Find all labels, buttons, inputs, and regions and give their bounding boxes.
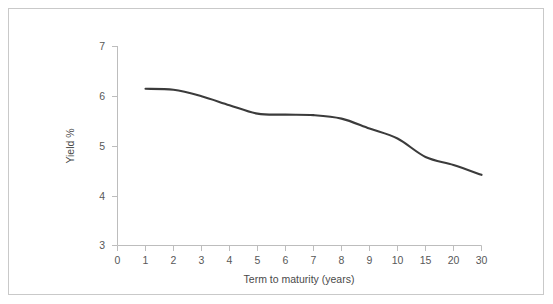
y-axis-ticks	[112, 47, 118, 246]
x-tick-label-5: 5	[255, 254, 261, 266]
y-tick-label-4: 4	[99, 190, 105, 202]
y-tick-label-6: 6	[99, 90, 105, 102]
y-axis-title: Yield %	[64, 128, 76, 163]
x-tick-label-6: 6	[283, 254, 289, 266]
x-tick-label-15: 15	[420, 254, 432, 266]
x-tick-label-9: 9	[367, 254, 373, 266]
x-axis-ticks	[118, 246, 482, 252]
x-axis-title: Term to maturity (years)	[244, 273, 355, 285]
x-tick-label-4: 4	[227, 254, 233, 266]
x-tick-label-7: 7	[311, 254, 317, 266]
x-tick-label-0: 0	[115, 254, 121, 266]
x-tick-label-2: 2	[171, 254, 177, 266]
yield-curve-line	[146, 89, 482, 175]
x-tick-label-8: 8	[339, 254, 345, 266]
x-tick-label-3: 3	[199, 254, 205, 266]
y-tick-label-7: 7	[99, 40, 105, 52]
x-tick-label-20: 20	[448, 254, 460, 266]
yield-curve-chart: 7 6 5 4 3 0 1 2 3 4 5 6 7 8	[0, 0, 553, 304]
chart-figure: 7 6 5 4 3 0 1 2 3 4 5 6 7 8	[0, 0, 553, 304]
y-tick-label-3: 3	[99, 239, 105, 251]
y-tick-label-5: 5	[99, 140, 105, 152]
x-tick-label-1: 1	[143, 254, 149, 266]
x-tick-label-10: 10	[392, 254, 404, 266]
x-tick-label-30: 30	[476, 254, 488, 266]
